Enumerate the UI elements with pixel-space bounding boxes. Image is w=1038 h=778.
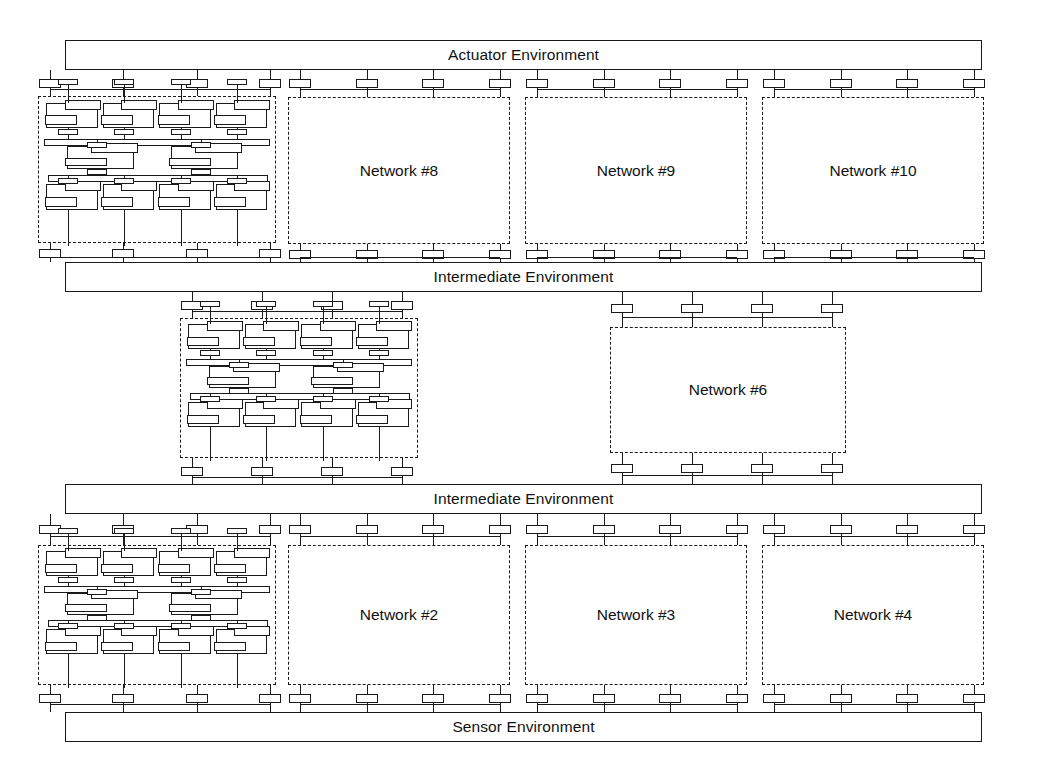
fractal-unit[interactable] [46,629,98,654]
fractal-node [333,362,353,368]
fractal-unit[interactable] [159,184,211,210]
connector-node[interactable] [659,694,681,703]
connector-node[interactable] [422,694,444,703]
connector-node[interactable] [489,694,511,703]
connector-node[interactable] [763,694,785,703]
network-box-2[interactable]: Network #2 [288,545,510,685]
fractal-unit[interactable] [245,324,297,349]
fractal-unit[interactable] [209,366,277,388]
connector-node[interactable] [289,694,311,703]
connector-node[interactable] [39,694,61,703]
connector-node[interactable] [186,694,208,703]
fractal-unit[interactable] [171,593,239,615]
connector-node[interactable] [611,304,633,313]
fractal-unit[interactable] [301,324,353,349]
connector-node[interactable] [112,694,134,703]
connector-node[interactable] [751,304,773,313]
connector-node[interactable] [422,525,444,534]
connector-node[interactable] [251,467,273,476]
fractal-unit-plate [45,642,77,651]
connector-node[interactable] [422,79,444,88]
connector-node[interactable] [259,694,281,703]
connector-node[interactable] [321,467,343,476]
fractal-unit[interactable] [188,402,240,427]
connector-node[interactable] [259,79,281,88]
connector-node[interactable] [896,694,918,703]
fractal-unit-plate [101,642,133,651]
connector-node[interactable] [593,525,615,534]
connector-node[interactable] [681,304,703,313]
connector-node[interactable] [356,694,378,703]
fractal-unit[interactable] [103,103,155,129]
fractal-unit[interactable] [46,103,98,129]
fractal-unit[interactable] [159,551,211,576]
fractal-unit[interactable] [188,324,240,349]
network-box-9[interactable]: Network #9 [525,97,747,244]
fractal-unit[interactable] [67,146,135,169]
connector-node[interactable] [659,525,681,534]
connector-node[interactable] [681,464,703,473]
connector-node[interactable] [726,79,748,88]
connector-node[interactable] [963,79,985,88]
fractal-unit[interactable] [245,402,297,427]
fractal-unit[interactable] [216,184,268,210]
fractal-stem [124,654,125,688]
fractal-unit[interactable] [301,402,353,427]
fractal-node [58,623,78,629]
connector-local-bus [774,704,974,705]
connector-node[interactable] [830,79,852,88]
fractal-unit[interactable] [171,146,239,169]
connector-node[interactable] [181,467,203,476]
connector-node[interactable] [526,525,548,534]
connector-node[interactable] [821,464,843,473]
fractal-unit[interactable] [216,103,268,129]
connector-node[interactable] [821,304,843,313]
fractal-unit[interactable] [358,402,410,427]
connector-node[interactable] [526,694,548,703]
connector-node[interactable] [489,525,511,534]
connector-node[interactable] [526,79,548,88]
fractal-unit-plate [234,100,270,110]
fractal-unit[interactable] [46,184,98,210]
network-box-6[interactable]: Network #6 [610,327,846,453]
connector-node[interactable] [830,694,852,703]
connector-node[interactable] [830,525,852,534]
connector-node[interactable] [391,467,413,476]
connector-node[interactable] [356,79,378,88]
network-box-3[interactable]: Network #3 [525,545,747,685]
connector-node[interactable] [356,525,378,534]
connector-node[interactable] [391,301,413,310]
connector-node[interactable] [763,79,785,88]
fractal-unit[interactable] [159,103,211,129]
connector-node[interactable] [659,79,681,88]
connector-node[interactable] [963,694,985,703]
connector-node[interactable] [751,464,773,473]
connector-node[interactable] [726,694,748,703]
connector-node[interactable] [259,525,281,534]
connector-node[interactable] [726,525,748,534]
connector-node[interactable] [489,79,511,88]
fractal-unit[interactable] [103,629,155,654]
environment-label: Sensor Environment [452,718,594,736]
connector-node[interactable] [896,79,918,88]
network-box-4[interactable]: Network #4 [762,545,984,685]
fractal-unit[interactable] [216,551,268,576]
connector-node[interactable] [963,525,985,534]
network-box-8[interactable]: Network #8 [288,97,510,244]
fractal-unit[interactable] [358,324,410,349]
connector-node[interactable] [289,525,311,534]
connector-node[interactable] [896,525,918,534]
fractal-unit[interactable] [103,184,155,210]
fractal-unit[interactable] [216,629,268,654]
network-box-10[interactable]: Network #10 [762,97,984,244]
fractal-unit[interactable] [46,551,98,576]
connector-node[interactable] [611,464,633,473]
connector-node[interactable] [289,79,311,88]
fractal-unit[interactable] [313,366,381,388]
connector-node[interactable] [593,694,615,703]
connector-node[interactable] [593,79,615,88]
fractal-unit[interactable] [159,629,211,654]
fractal-unit[interactable] [67,593,135,615]
connector-node[interactable] [763,525,785,534]
fractal-unit[interactable] [103,551,155,576]
